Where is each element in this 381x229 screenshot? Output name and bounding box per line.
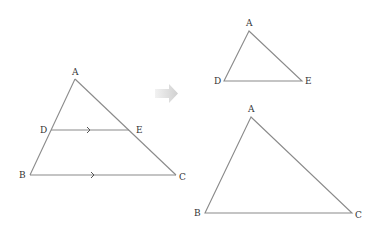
label-d-left: D — [40, 125, 47, 135]
label-b-left: B — [19, 170, 26, 180]
label-c-left: C — [179, 172, 186, 182]
label-b-large: B — [194, 208, 201, 218]
label-a-small: A — [245, 18, 253, 28]
triangle-ade — [224, 31, 302, 81]
left-figure: A D E B C — [19, 67, 186, 182]
triangle-abc — [205, 117, 352, 213]
small-triangle-ade: A D E — [214, 18, 312, 86]
label-d-small: D — [214, 76, 221, 86]
diagram-canvas: A D E B C A D E A B C — [0, 0, 381, 229]
label-c-large: C — [355, 210, 362, 220]
label-e-left: E — [136, 125, 143, 135]
label-a-left: A — [71, 67, 79, 77]
label-e-small: E — [305, 76, 312, 86]
large-triangle-abc: A B C — [194, 104, 362, 220]
side-ab — [30, 79, 75, 175]
label-a-large: A — [247, 104, 255, 114]
right-arrow-icon — [155, 84, 178, 103]
